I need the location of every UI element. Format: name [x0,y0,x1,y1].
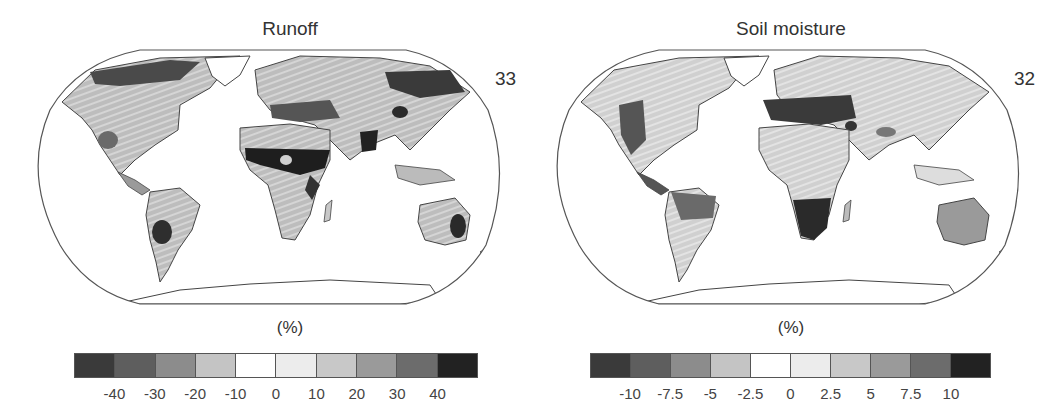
colorbar-bin [671,354,711,377]
colorbar-tick: -40 [104,385,126,402]
colorbar-tick: -30 [144,385,166,402]
colorbar-bin [751,354,791,377]
colorbar-bin [631,354,671,377]
colorbar-tick: -2.5 [737,385,763,402]
colorbar-bin [831,354,871,377]
soil-moisture-map [531,0,1061,320]
colorbar-bin [317,354,357,377]
colorbar-bin [75,354,115,377]
soil-moisture-panel: Soil moisture 32 [531,0,1061,415]
soil-moisture-colorbar-ticks: -10 -7.5 -5 -2.5 0 2.5 5 7.5 10 [590,385,991,405]
runoff-map [0,0,530,320]
colorbar-bin [951,354,990,377]
colorbar-tick: 7.5 [900,385,921,402]
colorbar-tick: -7.5 [657,385,683,402]
runoff-panel: Runoff 33 [0,0,530,415]
colorbar-bin [156,354,196,377]
colorbar-bin [438,354,477,377]
soil-moisture-map-frame [531,0,1061,320]
colorbar-tick: 0 [786,385,794,402]
colorbar-bin [911,354,951,377]
colorbar-bin [236,354,276,377]
colorbar-bin [357,354,397,377]
colorbar-tick: -5 [704,385,717,402]
colorbar-bin [711,354,751,377]
runoff-colorbar [74,353,478,378]
colorbar-tick: 0 [272,385,280,402]
colorbar-bin [871,354,911,377]
colorbar-tick: 40 [429,385,446,402]
soil-moisture-unit-label: (%) [526,318,1056,338]
colorbar-bin [196,354,236,377]
runoff-unit-label: (%) [25,318,555,338]
runoff-map-frame [0,0,530,320]
colorbar-tick: 5 [867,385,875,402]
colorbar-bin [397,354,437,377]
colorbar-bin [791,354,831,377]
colorbar-tick: 30 [389,385,406,402]
colorbar-bin [115,354,155,377]
colorbar-tick: 10 [943,385,960,402]
colorbar-tick: 2.5 [820,385,841,402]
colorbar-tick: -10 [225,385,247,402]
colorbar-tick: -20 [184,385,206,402]
colorbar-tick: 20 [348,385,365,402]
runoff-colorbar-ticks: -40 -30 -20 -10 0 10 20 30 40 [74,385,478,405]
soil-moisture-colorbar [590,353,991,378]
colorbar-bin [276,354,316,377]
colorbar-tick: -10 [619,385,641,402]
colorbar-tick: 10 [308,385,325,402]
colorbar-bin [591,354,631,377]
